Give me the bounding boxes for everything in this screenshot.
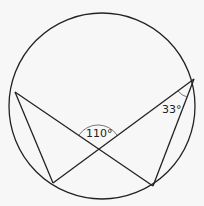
circle-diagram: 110° 33° xyxy=(0,0,204,206)
angle-label-110: 110° xyxy=(86,127,113,140)
chord-b-c xyxy=(53,79,194,183)
angle-label-33: 33° xyxy=(162,103,182,116)
angle-arc-33 xyxy=(178,91,187,97)
chord-b-d xyxy=(153,79,194,186)
